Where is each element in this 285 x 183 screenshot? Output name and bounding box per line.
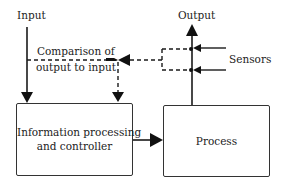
input-label: Input — [17, 9, 46, 22]
process-label: Process — [164, 135, 269, 148]
output-label: Output — [178, 9, 215, 22]
input-arrow — [21, 27, 33, 103]
comparison-label-line2: output to input — [35, 61, 117, 74]
output-arrow — [186, 24, 198, 105]
comparison-label-line1: Comparison of — [36, 45, 116, 58]
feedback-dashed — [130, 49, 190, 70]
controller-label-line1: Information processing — [17, 126, 132, 139]
controller-box: Information processing and controller — [16, 103, 133, 176]
sensor-arrows — [189, 44, 226, 74]
control-loop-diagram: Input Output Comparison of output to inp… — [0, 0, 285, 183]
sensors-label: Sensors — [229, 53, 271, 66]
controller-label-line2: and controller — [17, 140, 132, 153]
process-box: Process — [163, 105, 270, 177]
